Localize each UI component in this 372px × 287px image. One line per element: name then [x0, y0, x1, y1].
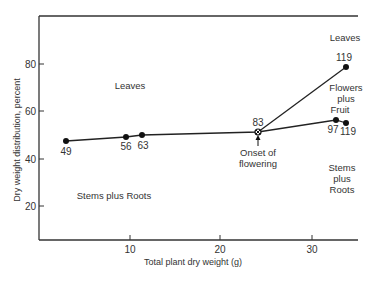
x-ticks — [130, 235, 312, 240]
x-axis-title: Total plant dry weight (g) — [144, 257, 242, 267]
region-flowers: Flowers — [329, 82, 363, 93]
x-tick-label: 10 — [124, 244, 136, 255]
region-stems-right: Stems — [329, 162, 356, 173]
onset-label: Onset of — [240, 147, 276, 158]
chart: 80 60 40 20 10 20 30 Total plant dry wei… — [0, 0, 372, 287]
y-tick-label: 60 — [25, 106, 37, 117]
x-tick-label: 30 — [306, 244, 318, 255]
region-stems-right: plus — [333, 173, 351, 184]
point-label: 119 — [336, 52, 352, 63]
y-axis-title: Dry weight distribution, percent — [12, 78, 22, 202]
region-leaves-left: Leaves — [115, 80, 146, 91]
region-flowers: plus — [337, 93, 355, 104]
y-tick-label: 20 — [25, 201, 37, 212]
region-stems-left: Stems plus Roots — [77, 190, 152, 201]
y-tick-label: 80 — [25, 59, 37, 70]
x-tick-label: 20 — [214, 244, 226, 255]
point-label: 49 — [60, 146, 72, 157]
stems-boundary-line — [66, 120, 346, 141]
y-ticks — [39, 64, 44, 206]
point-label: 63 — [137, 140, 149, 151]
region-flowers: Fruit — [331, 104, 350, 115]
point-label: 56 — [120, 141, 132, 152]
onset-arrow-icon — [256, 135, 261, 146]
leaves-boundary-line — [258, 67, 346, 132]
region-leaves-right: Leaves — [330, 32, 361, 43]
onset-point — [255, 129, 261, 135]
onset-label: flowering — [239, 158, 277, 169]
data-points — [63, 64, 349, 144]
point-label: 97 — [327, 124, 339, 135]
y-tick-label: 40 — [25, 154, 37, 165]
region-stems-right: Roots — [330, 184, 355, 195]
point-label: 119 — [340, 126, 356, 137]
point-label: 83 — [252, 117, 264, 128]
